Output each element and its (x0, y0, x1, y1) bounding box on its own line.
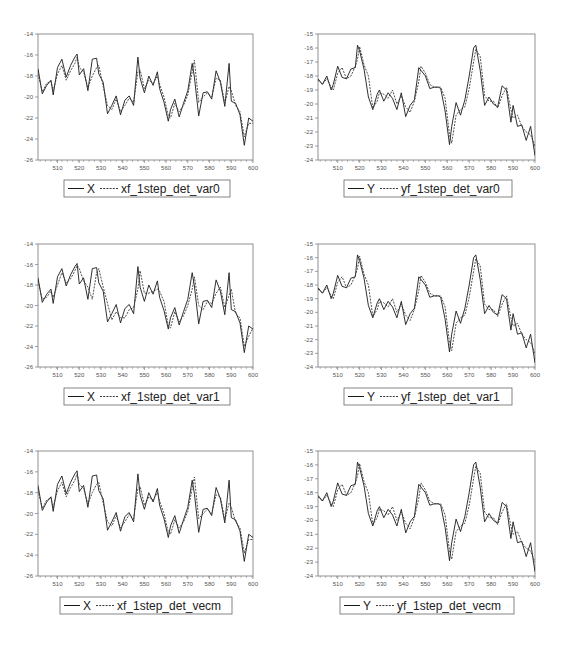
y-tick-label: -26 (24, 364, 33, 370)
x-tick-label: 510 (333, 581, 344, 587)
y-tick-label: -21 (304, 323, 313, 329)
x-tick-label: 600 (248, 165, 259, 171)
x-tick-label: 600 (248, 581, 259, 587)
y-tick-label: -23 (304, 350, 313, 356)
x-tick-label: 530 (377, 581, 388, 587)
y-tick-label: -24 (304, 573, 313, 579)
y-tick-label: -24 (24, 344, 33, 350)
legend-label-forecast: yf_1step_det_var1 (401, 390, 500, 404)
legend-label-actual: Y (367, 390, 375, 404)
x-tick-label: 520 (74, 372, 85, 378)
chart-panel-x_var0: -14-16-18-20-22-24-265105205305405505605… (24, 31, 258, 197)
legend-label-forecast: xf_1step_det_var1 (121, 390, 220, 404)
y-tick-label: -17 (304, 476, 313, 482)
x-tick-label: 510 (53, 165, 64, 171)
x-tick-label: 560 (442, 165, 453, 171)
legend-label-actual: Y (363, 599, 371, 613)
x-tick-label: 580 (486, 165, 497, 171)
x-tick-label: 580 (486, 372, 497, 378)
charts-canvas: -14-16-18-20-22-24-265105205305405505605… (0, 0, 566, 654)
chart-panel-y_var0: -15-16-17-18-19-20-21-22-23-245105205305… (304, 31, 540, 197)
x-tick-label: 530 (377, 165, 388, 171)
y-tick-label: -24 (304, 364, 313, 370)
y-tick-label: -21 (304, 115, 313, 121)
y-tick-label: -14 (24, 31, 33, 37)
y-tick-label: -16 (304, 255, 313, 261)
y-tick-label: -15 (304, 31, 313, 37)
x-tick-label: 590 (226, 372, 237, 378)
legend-label-forecast: xf_1step_det_vecm (117, 599, 221, 613)
x-tick-label: 510 (333, 165, 344, 171)
y-tick-label: -21 (304, 531, 313, 537)
x-tick-label: 550 (420, 372, 431, 378)
y-tick-label: -26 (24, 157, 33, 163)
plot-frame (318, 34, 535, 160)
y-tick-label: -14 (24, 241, 33, 247)
x-tick-label: 550 (139, 581, 150, 587)
y-tick-label: -22 (24, 531, 33, 537)
y-tick-label: -20 (24, 303, 33, 309)
y-tick-label: -16 (24, 469, 33, 475)
x-tick-label: 540 (398, 581, 409, 587)
y-tick-label: -20 (304, 101, 313, 107)
x-tick-label: 600 (530, 372, 541, 378)
x-tick-label: 540 (118, 581, 129, 587)
legend-label-actual: X (87, 390, 95, 404)
x-tick-label: 510 (333, 372, 344, 378)
x-tick-label: 560 (161, 165, 172, 171)
y-tick-label: -24 (304, 157, 313, 163)
x-tick-label: 550 (139, 165, 150, 171)
x-tick-label: 580 (205, 165, 216, 171)
x-tick-label: 570 (464, 165, 475, 171)
legend: Yyf_1step_det_var1 (344, 388, 512, 405)
y-tick-label: -20 (24, 94, 33, 100)
x-tick-label: 520 (74, 581, 85, 587)
x-tick-label: 530 (377, 372, 388, 378)
chart-panel-x_var1: -14-16-18-20-22-24-265105205305405505605… (24, 241, 258, 405)
x-tick-label: 590 (508, 372, 519, 378)
x-tick-label: 570 (464, 581, 475, 587)
plot-frame (38, 34, 253, 160)
x-tick-label: 590 (226, 581, 237, 587)
plot-frame (38, 451, 253, 576)
x-tick-label: 560 (161, 372, 172, 378)
y-tick-label: -14 (24, 448, 33, 454)
x-tick-label: 520 (355, 165, 366, 171)
x-tick-label: 590 (226, 165, 237, 171)
x-tick-label: 580 (205, 581, 216, 587)
legend: Yyf_1step_det_vecm (340, 597, 514, 614)
x-tick-label: 600 (530, 581, 541, 587)
x-tick-label: 590 (508, 165, 519, 171)
y-tick-label: -16 (24, 262, 33, 268)
x-tick-label: 510 (53, 372, 64, 378)
x-tick-label: 520 (355, 372, 366, 378)
legend-label-forecast: yf_1step_det_vecm (397, 599, 501, 613)
plot-frame (38, 244, 253, 367)
y-tick-label: -22 (24, 323, 33, 329)
legend: Xxf_1step_det_var1 (64, 388, 230, 405)
y-tick-label: -26 (24, 573, 33, 579)
x-tick-label: 560 (161, 581, 172, 587)
legend-label-forecast: yf_1step_det_var0 (401, 182, 500, 196)
legend-label-actual: Y (367, 182, 375, 196)
y-tick-label: -16 (304, 462, 313, 468)
y-tick-label: -20 (24, 511, 33, 517)
chart-grid: -14-16-18-20-22-24-265105205305405505605… (0, 0, 566, 654)
plot-frame (318, 451, 535, 576)
y-tick-label: -16 (24, 52, 33, 58)
chart-panel-y_vecm: -15-16-17-18-19-20-21-22-23-245105205305… (304, 448, 540, 614)
y-tick-label: -22 (304, 129, 313, 135)
y-tick-label: -19 (304, 504, 313, 510)
legend-label-actual: X (87, 182, 95, 196)
y-tick-label: -22 (304, 337, 313, 343)
x-tick-label: 600 (530, 165, 541, 171)
legend: Xxf_1step_det_vecm (60, 597, 232, 614)
y-tick-label: -18 (304, 490, 313, 496)
x-tick-label: 570 (183, 581, 194, 587)
x-tick-label: 570 (183, 372, 194, 378)
y-tick-label: -15 (304, 241, 313, 247)
y-tick-label: -18 (24, 282, 33, 288)
y-tick-label: -19 (304, 296, 313, 302)
y-tick-label: -20 (304, 517, 313, 523)
x-tick-label: 580 (205, 372, 216, 378)
